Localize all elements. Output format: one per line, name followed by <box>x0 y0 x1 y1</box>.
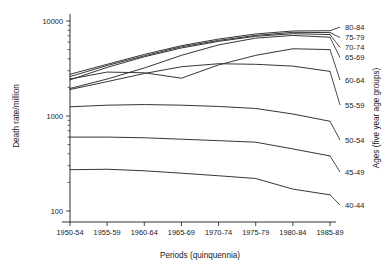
x-axis-title: Periods (quinquennia) <box>160 251 240 260</box>
series-line-45-49 <box>70 137 330 156</box>
y-axis-tick-label: 1000 <box>47 112 63 121</box>
x-axis-tick-label: 1985-89 <box>316 228 343 237</box>
series-label-75-79: 75-79 <box>345 33 364 42</box>
series-label-65-69: 65-69 <box>345 53 364 62</box>
series-lines <box>70 31 330 195</box>
y-axis: 100001000100 <box>42 14 70 222</box>
x-axis: 1950-541955-591960-641965-691970-741975-… <box>56 222 343 237</box>
series-labels: 80-8475-7970-7465-6960-6455-5950-5445-49… <box>330 23 364 210</box>
series-label-70-74: 70-74 <box>345 43 364 52</box>
series-line-80-84 <box>70 31 330 75</box>
death-rate-line-chart: 100001000100 1950-541955-591960-641965-6… <box>0 0 386 268</box>
x-axis-tick-label: 1955-59 <box>94 228 121 237</box>
series-line-75-79 <box>70 32 330 76</box>
series-label-45-49: 45-49 <box>345 168 364 177</box>
y-axis-tick-label: 10000 <box>42 17 63 26</box>
x-axis-tick-label: 1975-79 <box>242 228 269 237</box>
x-axis-tick-label: 1960-64 <box>131 228 158 237</box>
series-label-60-64: 60-64 <box>345 76 364 85</box>
leader-line-40-44 <box>330 195 340 205</box>
legend-title: Ages (five year age groups) <box>372 67 381 168</box>
series-label-80-84: 80-84 <box>345 23 364 32</box>
series-label-40-44: 40-44 <box>345 201 364 210</box>
series-line-50-54 <box>70 105 330 122</box>
x-axis-tick-label: 1950-54 <box>56 228 83 237</box>
x-axis-tick-label: 1970-74 <box>205 228 232 237</box>
series-line-55-59 <box>70 64 330 90</box>
series-label-50-54: 50-54 <box>345 136 364 145</box>
leader-line-50-54 <box>330 121 340 140</box>
x-axis-tick-label: 1980-84 <box>279 228 306 237</box>
series-label-55-59: 55-59 <box>345 101 364 110</box>
leader-line-80-84 <box>330 27 340 31</box>
leader-line-45-49 <box>330 156 340 172</box>
series-line-40-44 <box>70 169 330 195</box>
x-axis-tick-label: 1965-69 <box>168 228 195 237</box>
y-axis-title: Death rate/million <box>12 84 21 148</box>
series-line-70-74 <box>70 34 330 80</box>
y-axis-tick-label: 100 <box>51 207 63 216</box>
chart-canvas: 100001000100 1950-541955-591960-641965-6… <box>0 0 386 268</box>
